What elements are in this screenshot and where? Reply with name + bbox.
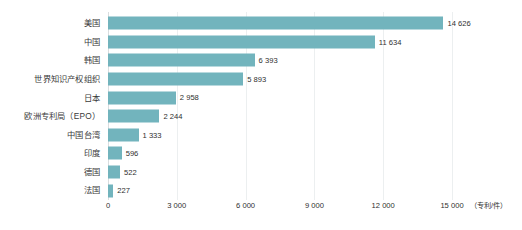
bar-value-label: 596 <box>126 150 139 158</box>
x-axis: （专利/件） 03 0006 0009 00012 00015 000 <box>0 202 522 222</box>
bar[interactable] <box>108 166 120 179</box>
x-tick-label: 3 000 <box>167 202 186 210</box>
category-label: 德国 <box>0 168 100 176</box>
bar-value-label: 6 393 <box>259 57 278 65</box>
bar-value-label: 14 626 <box>447 20 470 28</box>
bar-value-label: 5 893 <box>247 75 266 83</box>
bar-and-value: 1 333 <box>108 128 162 141</box>
bar-and-value: 5 893 <box>108 73 266 86</box>
bar-chart: 美国14 626中国11 634韩国6 393世界知识产权组织5 893日本2 … <box>0 0 522 230</box>
bar[interactable] <box>108 128 139 141</box>
bar-row[interactable]: 欧洲专利局（EPO）2 244 <box>0 107 522 126</box>
bar-and-value: 11 634 <box>108 35 401 48</box>
bar-and-value: 2 958 <box>108 91 199 104</box>
bar[interactable] <box>108 91 176 104</box>
bar-row[interactable]: 印度596 <box>0 144 522 163</box>
x-tick-label: 0 <box>106 202 110 210</box>
bar[interactable] <box>108 35 375 48</box>
bar-row[interactable]: 日本2 958 <box>0 88 522 107</box>
bar[interactable] <box>108 73 243 86</box>
bar[interactable] <box>108 54 255 67</box>
x-tick-label: 12 000 <box>372 202 395 210</box>
bar-row[interactable]: 中国11 634 <box>0 33 522 52</box>
bar-value-label: 522 <box>124 168 137 176</box>
bar-and-value: 227 <box>108 184 130 197</box>
bar-row[interactable]: 世界知识产权组织5 893 <box>0 70 522 89</box>
category-label: 欧洲专利局（EPO） <box>0 112 100 120</box>
category-label: 美国 <box>0 19 100 27</box>
bar[interactable] <box>108 184 113 197</box>
bar-value-label: 2 244 <box>163 112 182 120</box>
x-tick-label: 9 000 <box>305 202 324 210</box>
bar-and-value: 14 626 <box>108 17 471 30</box>
bar-and-value: 596 <box>108 147 138 160</box>
bar-value-label: 2 958 <box>180 94 199 102</box>
bar-row[interactable]: 韩国6 393 <box>0 51 522 70</box>
x-tick-label: 15 000 <box>440 202 463 210</box>
bar-value-label: 227 <box>117 187 130 195</box>
bar-row[interactable]: 德国522 <box>0 163 522 182</box>
bar-row[interactable]: 美国14 626 <box>0 14 522 33</box>
bar-and-value: 2 244 <box>108 110 182 123</box>
category-label: 中国 <box>0 38 100 46</box>
bar[interactable] <box>108 147 122 160</box>
bar[interactable] <box>108 17 443 30</box>
bar-row[interactable]: 中国台湾1 333 <box>0 126 522 145</box>
x-tick-label: 6 000 <box>236 202 255 210</box>
bar-row[interactable]: 法国227 <box>0 181 522 200</box>
category-label: 世界知识产权组织 <box>0 75 100 83</box>
bar-rows: 美国14 626中国11 634韩国6 393世界知识产权组织5 893日本2 … <box>0 14 522 200</box>
bar-and-value: 522 <box>108 166 137 179</box>
bar-and-value: 6 393 <box>108 54 278 67</box>
category-label: 韩国 <box>0 56 100 64</box>
bar[interactable] <box>108 110 159 123</box>
x-axis-unit-label: （专利/件） <box>470 202 507 209</box>
category-label: 中国台湾 <box>0 131 100 139</box>
category-label: 日本 <box>0 94 100 102</box>
category-label: 印度 <box>0 149 100 157</box>
bar-value-label: 1 333 <box>143 131 162 139</box>
category-label: 法国 <box>0 186 100 194</box>
bar-value-label: 11 634 <box>379 38 402 46</box>
